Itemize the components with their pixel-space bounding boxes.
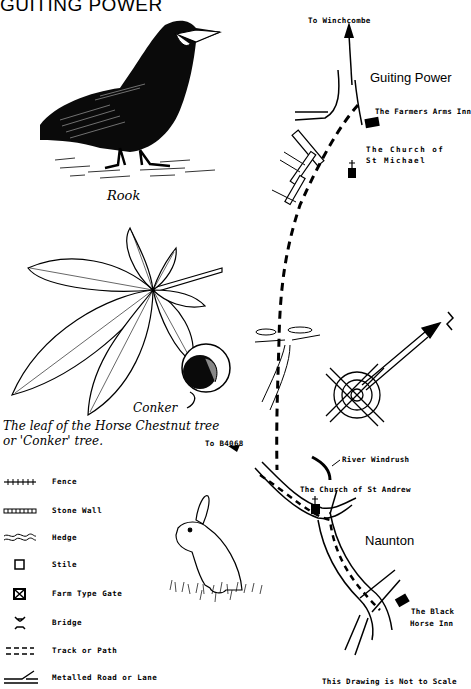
label-to-b4068: To B4068 [205, 439, 244, 449]
legend-item-track-path: Track or Path [0, 642, 160, 660]
church-st-michael-icon [348, 160, 356, 178]
legend-label: Hedge [52, 533, 77, 542]
legend-item-bridge: Bridge [0, 614, 160, 632]
legend-label: Metalled Road or Lane [52, 673, 157, 682]
legend-label: Bridge [52, 618, 82, 627]
black-horse-inn-building-icon [395, 594, 410, 608]
label-naunton: Naunton [365, 533, 414, 548]
hedge-icon [2, 529, 38, 547]
metalled-road-icon [2, 669, 38, 687]
church-st-andrew-icon [311, 496, 320, 514]
track-path-icon [2, 642, 38, 660]
label-black-horse-2: Horse Inn [410, 619, 453, 629]
legend-item-metalled-road: Metalled Road or Lane [0, 669, 160, 687]
legend-item-farm-gate: Farm Type Gate [0, 585, 160, 603]
compass-rose-icon [326, 312, 453, 426]
legend-label: Stone Wall [52, 506, 102, 515]
legend-item-stile: Stile [0, 556, 160, 574]
metalled-road-winchcombe [295, 35, 362, 125]
legend-label: Fence [52, 477, 77, 486]
bridge-icon [2, 614, 38, 632]
stile-icon [2, 556, 38, 574]
hedge-crossing-icon [255, 327, 320, 410]
legend-item-hedge: Hedge [0, 529, 160, 547]
stone-wall-icon [2, 502, 38, 520]
legend-label: Stile [52, 560, 77, 569]
label-black-horse-1: The Black [411, 607, 454, 617]
label-guiting-power: Guiting Power [370, 70, 452, 85]
label-farmers-arms-inn: The Farmers Arms Inn [375, 107, 471, 117]
farm-gate-icon [2, 585, 38, 603]
label-river-windrush: River Windrush [342, 455, 409, 465]
river-windrush-icon [312, 457, 330, 480]
label-church-st-andrew: The Church of St Andrew [300, 485, 411, 495]
legend-item-stone-wall: Stone Wall [0, 502, 160, 520]
label-to-winchcombe: To Winchcombe [308, 16, 371, 26]
label-church-st-michael-2: St Michael [366, 156, 426, 166]
label-church-st-michael-1: The Church of [366, 145, 444, 155]
fence-icon [2, 473, 38, 491]
legend-item-fence: Fence [0, 473, 160, 491]
legend-label: Farm Type Gate [52, 589, 122, 598]
legend-label: Track or Path [52, 646, 117, 655]
farmers-arms-building-icon [364, 117, 379, 128]
scale-note: This Drawing is Not to Scale [322, 677, 457, 687]
